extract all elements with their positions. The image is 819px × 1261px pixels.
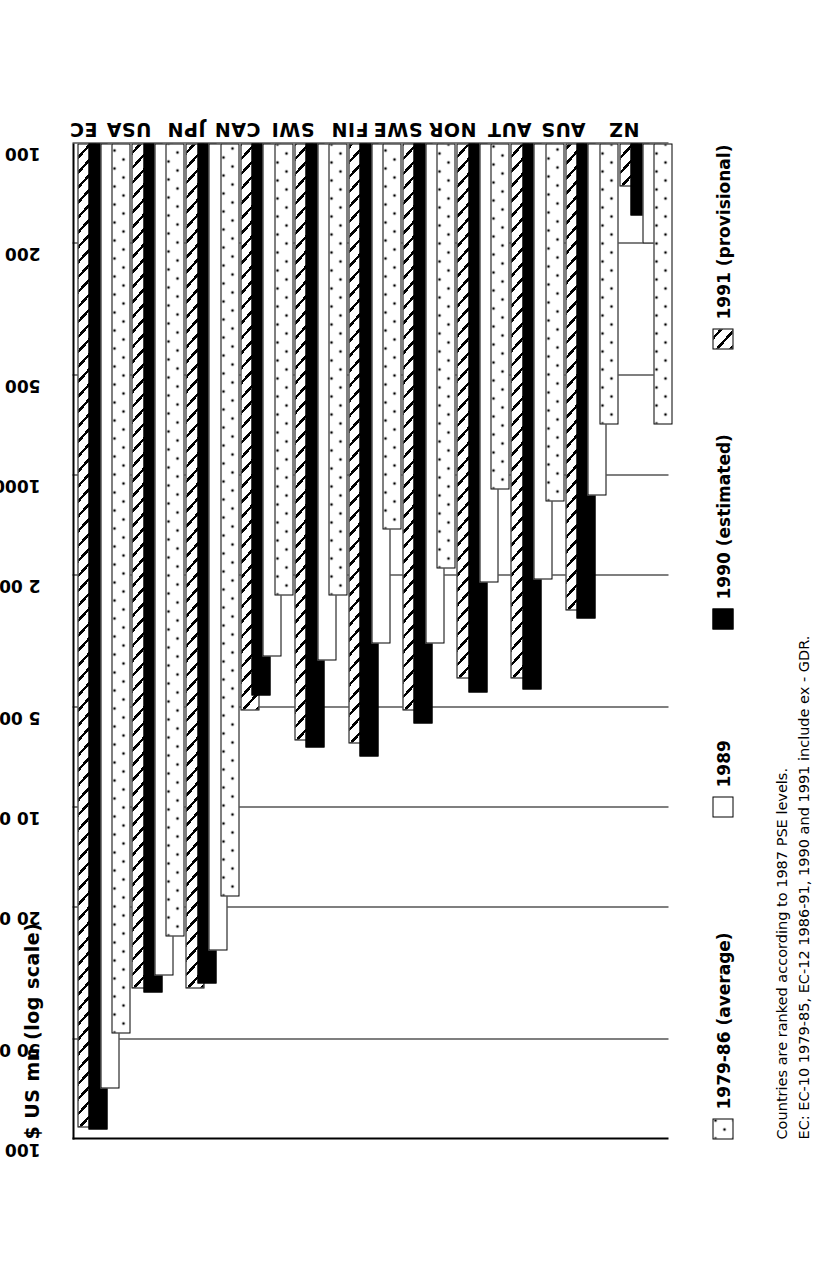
- legend-label: 1990 (estimated): [713, 434, 733, 599]
- category-label-jpn: JPN: [167, 118, 205, 140]
- category-label-can: CAN: [214, 118, 260, 140]
- legend-label: 1989: [713, 740, 733, 787]
- category-label-aut: AUT: [487, 118, 531, 140]
- legend-item-hatched[interactable]: 1991 (provisional): [712, 144, 733, 349]
- category-label-swi: SWI: [271, 118, 314, 140]
- legend-swatch-hatched-icon: [712, 328, 733, 349]
- legend-swatch-white-icon: [712, 796, 733, 817]
- category-label-fin: FIN: [331, 118, 368, 140]
- rotated-figure: $ US mn (log scale) 100 00050 00020 0001…: [0, 0, 819, 1261]
- category-label-ec: EC: [69, 118, 97, 140]
- category-label-nz: NZ: [608, 118, 639, 140]
- legend-swatch-black-icon: [712, 608, 733, 629]
- legend-item-black[interactable]: 1990 (estimated): [712, 434, 733, 629]
- category-label-aus: AUS: [540, 118, 585, 140]
- category-label-nor: NOR: [428, 118, 476, 140]
- chart-legend: 1979-86 (average)19891990 (estimated)199…: [0, 143, 819, 1139]
- legend-item-white[interactable]: 1989: [712, 740, 733, 817]
- legend-label: 1991 (provisional): [713, 144, 733, 319]
- legend-label: 1979-86 (average): [713, 932, 733, 1109]
- chart-note-1: Countries are ranked according to 1987 P…: [770, 635, 792, 1139]
- chart-notes: Countries are ranked according to 1987 P…: [770, 635, 815, 1139]
- category-label-swe: SWE: [373, 118, 422, 140]
- chart-note-2: EC: EC-10 1979-85, EC-12 1986-91, 1990 a…: [792, 635, 814, 1139]
- legend-item-dotted[interactable]: 1979-86 (average): [712, 932, 733, 1139]
- category-label-usa: USA: [106, 118, 151, 140]
- legend-swatch-dotted-icon: [712, 1118, 733, 1139]
- tick-label-100000: 100 000: [0, 1139, 40, 1159]
- chart-page: $ US mn (log scale) 100 00050 00020 0001…: [0, 0, 819, 1261]
